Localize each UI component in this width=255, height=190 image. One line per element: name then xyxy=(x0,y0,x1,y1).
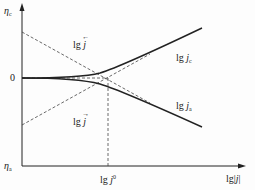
x-axis-label: lg|j| xyxy=(226,174,241,184)
zero-label: 0 xyxy=(10,73,15,83)
x-axis-arrow-icon xyxy=(238,164,246,169)
label-prefix: lg xyxy=(176,52,186,63)
label-suffix: | xyxy=(239,173,241,184)
j-with-arrow: j→ xyxy=(83,117,86,127)
label-prefix: lg| xyxy=(226,173,236,184)
exchange-current-tick-label: lg j0 xyxy=(100,174,116,185)
anodic-curve xyxy=(22,78,202,127)
cathodic-curve-label: lg jc xyxy=(176,53,192,64)
j-with-arrow: j← xyxy=(83,40,86,50)
tafel-diagram: ηc 0 ηa lg j← lg j→ lg jc lg ja lg j0 lg… xyxy=(0,0,255,190)
y-axis-top-label: ηc xyxy=(4,6,12,17)
diagram-canvas xyxy=(0,0,255,190)
label-prefix: lg xyxy=(176,100,186,111)
label-sub: a xyxy=(189,106,192,112)
y-axis-bottom-label: ηa xyxy=(4,161,12,172)
eta-sub-a: a xyxy=(9,166,12,172)
label-prefix: lg xyxy=(100,174,110,185)
label-sup: 0 xyxy=(113,174,116,180)
y-axis-arrow-icon xyxy=(20,3,25,11)
lower-asymptote-label: lg j→ xyxy=(73,117,86,127)
left-arrow-icon: ← xyxy=(82,34,89,41)
eta-sub-c: c xyxy=(9,11,12,17)
anodic-curve-label: lg ja xyxy=(176,101,192,112)
upper-asymptote-label: lg j← xyxy=(73,40,86,50)
label-sub: c xyxy=(189,58,192,64)
right-arrow-icon: → xyxy=(82,111,89,118)
cathodic-curve xyxy=(22,28,202,78)
